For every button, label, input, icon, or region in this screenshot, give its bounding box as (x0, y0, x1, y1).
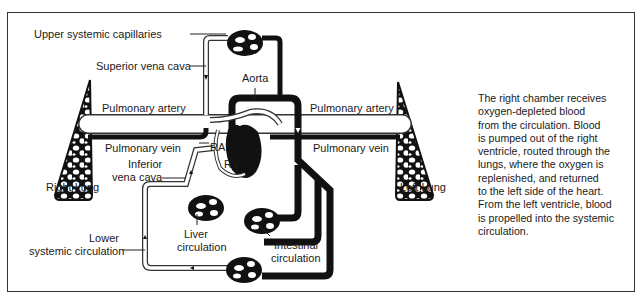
label-pulmonary-artery-right: Pulmonary artery (310, 102, 394, 114)
label-pulmonary-vein-left: Pulmonary vein (105, 142, 181, 154)
label-left-lung: Left Lung (400, 181, 446, 193)
upper-capillary-bed-icon (227, 30, 263, 56)
superior-vena-cava-vessel (204, 38, 228, 115)
label-pulmonary-artery-left: Pulmonary artery (102, 102, 186, 114)
label-intestinal-1: Intestinal (274, 239, 318, 251)
description-text: The right chamber receives oxygen-deplet… (478, 92, 644, 238)
label-rv: RV (224, 158, 240, 170)
label-liver-2: circulation (177, 241, 227, 253)
label-upper-systemic-capillaries: Upper systemic capillaries (34, 28, 162, 40)
label-lower-2: systemic circulation (29, 245, 124, 257)
label-right-lung: Right Lung (46, 181, 99, 193)
label-inferior-vena-cava-1: Inferior (128, 158, 163, 170)
liver-capillary-bed-icon (188, 195, 224, 221)
label-aorta: Aorta (242, 72, 269, 84)
label-intestinal-2: circulation (271, 252, 321, 264)
label-inferior-vena-cava-2: vena cava (112, 171, 163, 183)
label-lower-1: Lower (89, 232, 119, 244)
label-superior-vena-cava: Superior vena cava (96, 60, 192, 72)
label-pulmonary-vein-right: Pulmonary vein (313, 142, 389, 154)
label-ra: RA (210, 141, 226, 153)
lower-capillary-bed-icon (226, 257, 262, 283)
intestinal-capillary-bed-icon (244, 208, 280, 234)
label-liver-1: Liver (184, 228, 208, 240)
